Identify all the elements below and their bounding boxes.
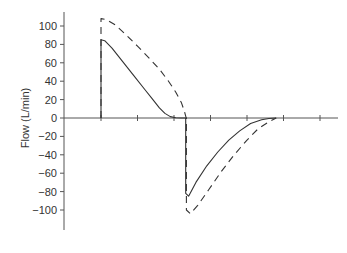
y-ticks: 100806040200−20−40−60−80−100 xyxy=(32,20,64,216)
y-tick-label: 100 xyxy=(39,20,57,32)
y-tick-label: −20 xyxy=(38,130,57,142)
series-line-dashed xyxy=(101,19,276,214)
y-axis-label: Flow (L/min) xyxy=(19,88,31,149)
axes xyxy=(64,12,338,230)
y-tick-label: 20 xyxy=(45,94,57,106)
flow-chart: 100806040200−20−40−60−80−100 Flow (L/min… xyxy=(0,0,347,253)
y-tick-label: 40 xyxy=(45,75,57,87)
y-tick-label: −100 xyxy=(32,204,57,216)
series-group xyxy=(101,19,276,214)
y-tick-label: 80 xyxy=(45,38,57,50)
y-tick-label: −40 xyxy=(38,149,57,161)
y-tick-label: −60 xyxy=(38,167,57,179)
y-tick-label: 0 xyxy=(51,112,57,124)
y-tick-label: −80 xyxy=(38,186,57,198)
y-tick-label: 60 xyxy=(45,57,57,69)
